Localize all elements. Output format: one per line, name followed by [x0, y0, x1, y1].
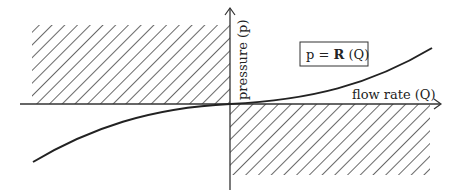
equation-label: p = R (Q): [306, 47, 369, 62]
resistor-characteristic-diagram: pressure (p) flow rate (Q) p = R (Q): [0, 0, 460, 196]
x-axis-label: flow rate (Q): [352, 87, 436, 102]
upper-left-hatched-region: [32, 25, 230, 104]
lower-right-hatched-region: [230, 104, 430, 175]
y-axis-label: pressure (p): [235, 20, 250, 100]
